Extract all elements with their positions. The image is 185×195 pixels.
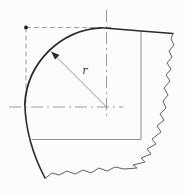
top-edge xyxy=(101,28,173,34)
radius-leader-line xyxy=(54,55,107,108)
fillet-radius-diagram: r xyxy=(0,0,185,195)
drawing-canvas: r xyxy=(0,0,185,195)
break-line xyxy=(45,34,174,179)
corner-point-dot xyxy=(24,26,28,30)
left-edge xyxy=(25,104,45,178)
inner-edge-lines xyxy=(32,31,142,140)
fillet-arc xyxy=(25,28,101,104)
radius-label: r xyxy=(82,64,88,77)
